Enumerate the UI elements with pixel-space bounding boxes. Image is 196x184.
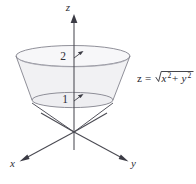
- z-axis-label: z: [65, 1, 71, 13]
- equation-x-exponent: 2: [168, 71, 172, 80]
- equation-annotation: z = x 2 + y 2: [137, 71, 193, 85]
- equation-x-base: x: [161, 72, 167, 84]
- x-axis-back-ray: [74, 113, 107, 132]
- y-axis-arrowhead: [119, 155, 129, 162]
- y-axis-back-ray: [41, 113, 74, 132]
- x-axis-arrowhead: [20, 155, 30, 162]
- z-tick-label-1: 1: [62, 93, 68, 105]
- equation-y-base: y: [181, 72, 187, 84]
- equation-equals: =: [145, 72, 151, 84]
- y-axis-label: y: [130, 157, 136, 169]
- cone-surface-figure: z x y 2 1 z = x 2 + y 2: [0, 0, 196, 184]
- z-tick-label-2: 2: [60, 50, 66, 62]
- x-axis-label: x: [9, 157, 15, 169]
- y-axis-line: [74, 132, 124, 159]
- z-axis-arrowhead: [71, 14, 78, 23]
- figure-container: z x y 2 1 z = x 2 + y 2: [0, 0, 196, 184]
- equation-y-exponent: 2: [188, 71, 192, 80]
- x-axis-line: [24, 132, 74, 159]
- equation-plus: +: [172, 72, 178, 84]
- equation-lhs: z: [137, 72, 142, 84]
